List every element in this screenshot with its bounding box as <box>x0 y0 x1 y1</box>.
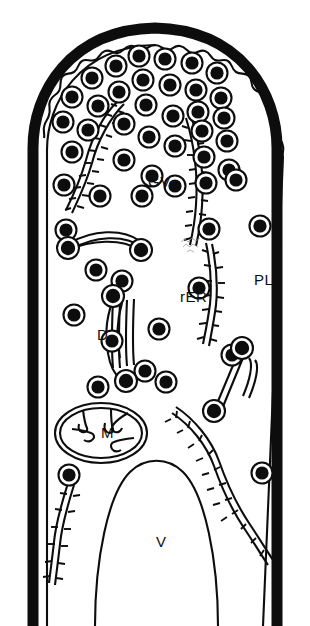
golgi-vesicle <box>53 112 74 133</box>
golgi-vesicle <box>196 173 217 194</box>
golgi-vesicle <box>163 106 184 127</box>
golgi-vesicle <box>182 53 203 74</box>
golgi-vesicle <box>160 75 181 96</box>
golgi-vesicle <box>90 186 111 207</box>
golgi-vesicle <box>207 63 228 84</box>
golgi-vesicle <box>54 175 75 196</box>
golgi-vesicle <box>226 170 247 191</box>
cell-diagram-svg: GVrERPLDMV <box>0 0 310 626</box>
golgi-vesicle <box>188 102 209 123</box>
golgi-vesicle <box>114 150 135 171</box>
golgi-vesicle <box>88 96 109 117</box>
golgi-vesicle <box>88 377 109 398</box>
label-vacuole: V <box>156 533 167 550</box>
golgi-vesicle <box>186 80 207 101</box>
golgi-vesicle <box>199 219 220 240</box>
golgi-vesicle <box>86 260 107 281</box>
golgi-vesicle <box>78 120 99 141</box>
golgi-vesicle <box>165 136 186 157</box>
golgi-vesicle <box>62 142 83 163</box>
golgi-vesicle <box>129 46 150 67</box>
golgi-vesicle <box>211 88 232 109</box>
label-golgi-vesicles: GV <box>148 173 171 190</box>
golgi-vesicle <box>194 147 215 168</box>
golgi-vesicle <box>192 121 213 142</box>
label-rough-endoplasmic-reticulum: rER <box>180 288 207 305</box>
label-plasmalemma-cell-wall: PL <box>254 271 273 288</box>
golgi-vesicle <box>114 114 135 135</box>
golgi-vesicle <box>155 49 176 70</box>
golgi-vesicle <box>250 216 271 237</box>
golgi-vesicle <box>64 305 85 326</box>
golgi-vesicle <box>59 465 80 486</box>
golgi-vesicle <box>136 95 157 116</box>
golgi-vesicle <box>252 463 273 484</box>
golgi-vesicle <box>62 87 83 108</box>
golgi-vesicle <box>109 82 130 103</box>
diagram-canvas: GVrERPLDMV <box>0 0 310 626</box>
golgi-vesicle <box>82 68 103 89</box>
golgi-vesicle <box>214 108 235 129</box>
golgi-vesicle <box>106 56 127 77</box>
golgi-vesicle <box>156 372 177 393</box>
golgi-vesicle <box>149 319 170 340</box>
label-layer: GVrERPLDMV <box>97 173 273 550</box>
golgi-vesicle <box>133 70 154 91</box>
golgi-vesicle <box>139 127 160 148</box>
label-mitochondrion: M <box>101 424 114 441</box>
label-dictyosome: D <box>97 326 108 343</box>
golgi-vesicle <box>217 131 238 152</box>
